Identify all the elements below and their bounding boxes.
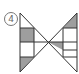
bowtie-grid-figure [0, 0, 79, 74]
outline [20, 13, 77, 72]
